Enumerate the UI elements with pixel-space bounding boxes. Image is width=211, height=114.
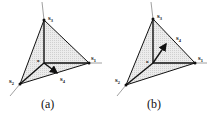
label-s3: s3: [48, 14, 54, 23]
label-s2: s2: [115, 76, 121, 85]
caption-b: (b): [147, 97, 161, 111]
panel-b: o s3 s1 s2 s4 (b): [115, 2, 207, 111]
caption-a: (a): [41, 97, 54, 111]
panel-a: o s3 s1 s2 s4 (a): [9, 2, 102, 111]
label-s1: s1: [91, 54, 97, 63]
label-s4: s4: [60, 75, 66, 84]
axis-s3: [42, 2, 44, 20]
axis-s3: [151, 2, 153, 19]
label-s4: s4: [176, 34, 182, 43]
tetrahedron-figure: o s3 s1 s2 s4 (a) o s3 s1 s2 s4 (b): [0, 0, 211, 114]
axis-s2: [117, 85, 126, 96]
label-s1: s1: [198, 54, 204, 63]
label-s2: s2: [9, 77, 15, 86]
label-s3: s3: [157, 12, 163, 21]
axis-s2: [10, 84, 20, 96]
